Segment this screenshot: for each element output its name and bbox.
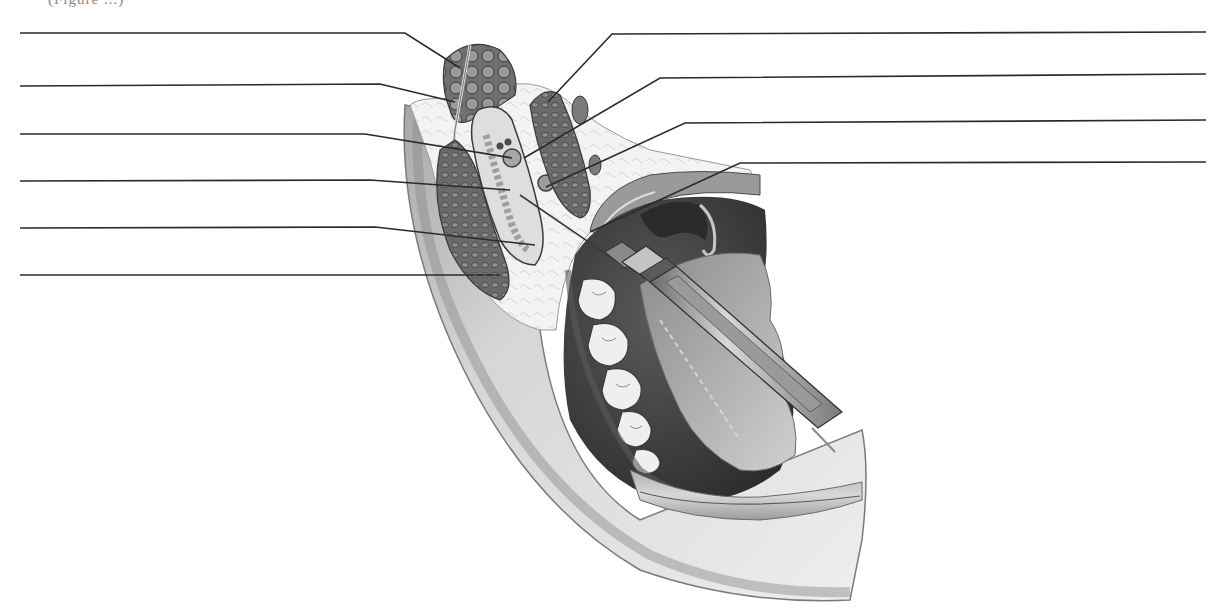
label-slot-l6[interactable] (20, 257, 360, 273)
label-slot-l5[interactable] (20, 210, 360, 226)
label-slot-l1[interactable] (20, 15, 360, 31)
label-slot-l3[interactable] (20, 116, 360, 132)
label-slot-r1[interactable] (622, 14, 1206, 30)
label-slot-l4[interactable] (20, 163, 360, 179)
label-slot-r3[interactable] (695, 102, 1206, 118)
anatomy-illustration (0, 0, 1214, 608)
label-slot-l2[interactable] (20, 68, 360, 84)
anatomy-figure: (Figure ...) (0, 0, 1214, 608)
leader-line-l2 (20, 84, 455, 102)
label-slot-r2[interactable] (670, 56, 1206, 72)
leader-line-l1 (20, 33, 460, 68)
figure-caption-fragment: (Figure ...) (48, 0, 124, 8)
label-slot-r4[interactable] (750, 144, 1206, 160)
